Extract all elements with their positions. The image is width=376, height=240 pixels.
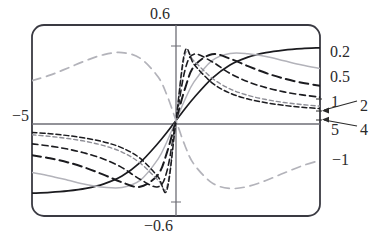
- figure-container: 0.6 −0.6 −5 0.2 0.5 1 2 4 5 −1: [0, 0, 376, 240]
- plot-canvas: [0, 0, 376, 240]
- x-axis-min-label: −5: [12, 108, 29, 124]
- curve-label-1: 1: [331, 94, 339, 110]
- y-axis-max-label: 0.6: [150, 6, 170, 22]
- curve-label-5: 5: [331, 122, 339, 138]
- leader-arrow-2: [322, 108, 329, 114]
- leader-arrow-4: [322, 117, 329, 123]
- curve-label-0-5: 0.5: [330, 69, 350, 85]
- annotation-leaders: [322, 101, 357, 126]
- curve-label-minus-1: −1: [332, 152, 349, 168]
- curve-label-2: 2: [360, 98, 368, 114]
- right-edge-ticks: [316, 99, 322, 120]
- curve-label-0-2: 0.2: [330, 44, 350, 60]
- curve-label-4: 4: [360, 122, 368, 138]
- y-axis-min-label: −0.6: [144, 218, 173, 234]
